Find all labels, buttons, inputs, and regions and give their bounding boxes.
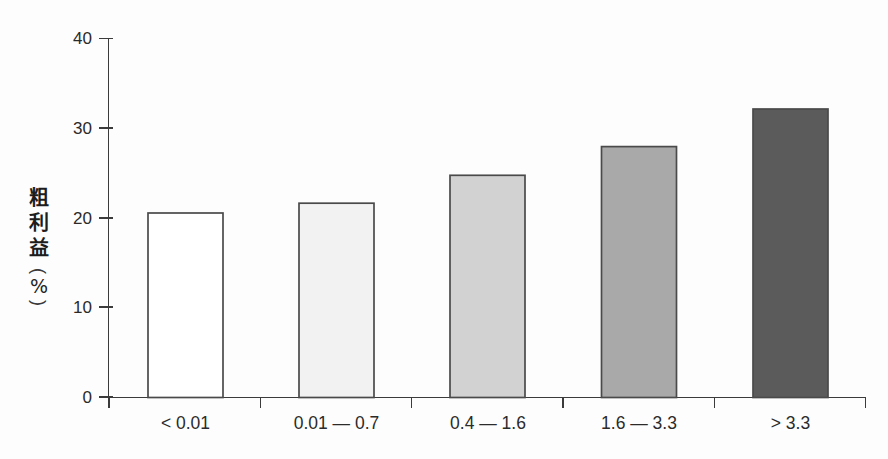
bar-0: [148, 213, 223, 398]
x-category-label-2: 0.4 — 1.6: [450, 413, 526, 433]
x-category-label-1: 0.01 — 0.7: [294, 413, 380, 433]
y-tick-label-30: 30: [73, 119, 92, 138]
bar-chart: 粗 利 益 ( % ) 40 30 20 10 0: [0, 0, 888, 459]
y-tick-label-0: 0: [83, 388, 92, 407]
x-category-label-3: 1.6 — 3.3: [601, 413, 677, 433]
x-category-label-4: > 3.3: [771, 413, 810, 433]
x-category-label-0: < 0.01: [161, 413, 210, 433]
bar-4: [753, 109, 828, 398]
y-tick-label-40: 40: [73, 29, 92, 48]
y-tick-label-20: 20: [73, 209, 92, 228]
bar-3: [602, 147, 677, 398]
y-tick-label-10: 10: [73, 298, 92, 317]
plot-area: 40 30 20 10 0 < 0.01 0.01 — 0.7 0.4 — 1.…: [0, 0, 888, 459]
bar-2: [450, 175, 525, 397]
bar-1: [299, 203, 374, 397]
